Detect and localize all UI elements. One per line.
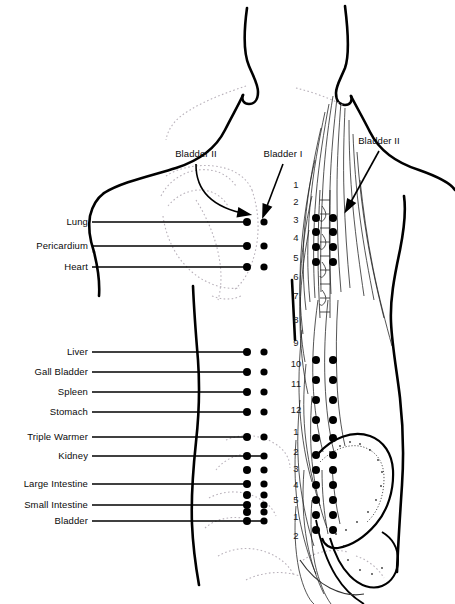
acupuncture-point-spine-inner	[312, 526, 320, 534]
vertebra-number: 1	[293, 427, 298, 437]
acupuncture-point-spine-inner	[312, 416, 320, 424]
vertebra-number: 10	[291, 359, 302, 369]
arrow-head	[263, 204, 271, 217]
acupuncture-point-spine-outer	[329, 526, 337, 534]
organ-label: Gall Bladder	[0, 367, 88, 377]
vertebra-number: 2	[293, 447, 298, 457]
acupuncture-point-inner	[243, 348, 251, 356]
organ-label: Heart	[0, 262, 88, 272]
arrow-pointers	[196, 151, 379, 217]
acupuncture-point-spine-outer	[329, 451, 337, 459]
vertebra-number: 9	[293, 338, 298, 348]
acupuncture-point-inner	[243, 491, 251, 499]
vertebra-number: 11	[291, 379, 301, 389]
acupuncture-point-spine-outer	[329, 243, 337, 251]
organ-label: Kidney	[0, 451, 88, 461]
organ-label: Bladder	[0, 516, 88, 526]
acupuncture-point-outer	[260, 218, 267, 225]
acupuncture-point-spine-outer	[329, 466, 337, 474]
acupuncture-point-outer	[260, 517, 267, 524]
acupuncture-point-inner	[243, 501, 251, 509]
body-outline	[89, 6, 455, 585]
acupuncture-point-inner	[243, 508, 251, 516]
vertebra-number: 1	[293, 180, 298, 190]
acupuncture-point-spine-inner	[312, 356, 320, 364]
vertebra-number: 3	[293, 215, 298, 225]
vertebra-number: 2	[293, 531, 298, 541]
acupuncture-point-inner	[243, 433, 251, 441]
vertebra-number: 4	[293, 233, 298, 243]
acupuncture-point-inner	[243, 408, 251, 416]
acupuncture-point-outer	[260, 368, 267, 375]
acupuncture-point-spine-inner	[312, 466, 320, 474]
acupuncture-point-inner	[243, 452, 251, 460]
acupuncture-point-outer	[260, 408, 267, 415]
acupuncture-point-spine-inner	[312, 214, 320, 222]
acupuncture-point-inner	[243, 480, 251, 488]
acupuncture-point-spine-inner	[312, 496, 320, 504]
acupuncture-point-spine-outer	[329, 228, 337, 236]
arrow-shaft	[196, 164, 247, 214]
acupuncture-point-spine-inner	[312, 511, 320, 519]
organ-label: Triple Warmer	[0, 432, 88, 442]
organ-label: Large Intestine	[0, 479, 88, 489]
organ-label: Small Intestine	[0, 500, 88, 510]
acupuncture-point-outer	[260, 466, 267, 473]
acupuncture-point-outer	[260, 452, 267, 459]
acupuncture-point-spine-inner	[312, 376, 320, 384]
organ-label: Lung	[0, 217, 88, 227]
organ-label: Pericardium	[0, 241, 88, 251]
vertebra-number: 3	[293, 464, 298, 474]
vertebra-number: 5	[293, 253, 298, 263]
organ-label: Liver	[0, 347, 88, 357]
arrow-label-bladder-1: Bladder I	[264, 149, 303, 159]
arrow-head	[237, 208, 250, 216]
acupuncture-points	[243, 214, 337, 534]
acupuncture-point-outer	[260, 242, 267, 249]
acupuncture-point-outer	[260, 501, 267, 508]
acupuncture-point-spine-inner	[312, 481, 320, 489]
acupuncture-point-spine-outer	[329, 496, 337, 504]
pelvis-bone	[300, 434, 398, 604]
vertebra-number: 7	[293, 291, 298, 301]
vertebra-number: 4	[293, 480, 298, 490]
acupuncture-point-spine-inner	[312, 396, 320, 404]
arrow-label-bladder-2-left: Bladder II	[175, 149, 217, 159]
erector-spinae-muscle	[295, 96, 392, 604]
acupuncture-point-spine-outer	[329, 511, 337, 519]
anatomy-chart-page: LungPericardiumHeartLiverGall BladderSpl…	[0, 0, 455, 604]
vertebra-number: 2	[293, 197, 298, 207]
acupuncture-point-spine-outer	[329, 356, 337, 364]
vertebra-number: 6	[293, 272, 298, 282]
acupuncture-point-outer	[260, 348, 267, 355]
acupuncture-point-spine-outer	[329, 396, 337, 404]
acupuncture-point-inner	[243, 388, 251, 396]
acupuncture-point-outer	[260, 388, 267, 395]
acupuncture-point-outer	[260, 433, 267, 440]
organ-label: Spleen	[0, 387, 88, 397]
vertebra-number: 12	[291, 405, 302, 415]
acupuncture-point-outer	[260, 263, 267, 270]
acupuncture-point-outer	[260, 480, 267, 487]
acupuncture-point-spine-outer	[329, 416, 337, 424]
vertebral-column	[318, 190, 330, 318]
leader-lines	[92, 222, 264, 521]
acupuncture-point-spine-inner	[312, 451, 320, 459]
acupuncture-point-spine-inner	[312, 228, 320, 236]
acupuncture-point-spine-inner	[312, 258, 320, 266]
acupuncture-point-spine-outer	[329, 481, 337, 489]
anatomy-illustration	[0, 0, 455, 604]
vertebra-number: 8	[293, 315, 298, 325]
arrow-shaft	[347, 151, 379, 209]
acupuncture-point-spine-inner	[312, 243, 320, 251]
acupuncture-point-inner	[243, 263, 251, 271]
arrow-head	[346, 199, 355, 212]
acupuncture-point-spine-inner	[312, 434, 320, 442]
acupuncture-point-outer	[260, 491, 267, 498]
acupuncture-point-spine-outer	[329, 258, 337, 266]
acupuncture-point-inner	[243, 368, 251, 376]
arrow-label-bladder-2-right: Bladder II	[358, 136, 400, 146]
acupuncture-point-inner	[243, 242, 251, 250]
organ-label: Stomach	[0, 407, 88, 417]
vertebra-number: 1	[293, 512, 298, 522]
